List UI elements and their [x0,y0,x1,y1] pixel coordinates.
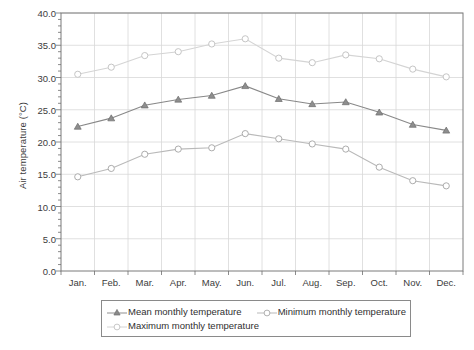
legend-label-maximum: Maximum monthly temperature [128,320,259,331]
legend-item-minimum[interactable]: Minimum monthly temperature [256,305,406,317]
legend-row-2: Maximum monthly temperature [106,318,406,332]
data-point-marker [108,115,115,121]
legend-row-1: Mean monthly temperature Minimum monthly… [106,304,406,318]
data-point-marker [376,164,382,170]
data-point-marker [75,174,81,180]
data-point-marker [142,151,148,157]
data-point-marker [309,60,315,66]
data-point-marker [242,36,248,42]
data-point-marker [108,64,114,70]
legend-marker-mean-triangle-icon [106,305,128,317]
plot-area [0,0,474,350]
data-point-marker [276,55,282,61]
data-point-marker [142,52,148,58]
data-point-marker [276,136,282,142]
data-point-marker [242,131,248,137]
data-point-marker [175,146,181,152]
data-point-marker [275,95,282,101]
legend-label-minimum: Minimum monthly temperature [278,306,406,317]
data-point-marker [343,52,349,58]
legend-marker-maximum-circle-icon [106,319,128,331]
data-point-marker [209,41,215,47]
temperature-line-chart: Air temperature (°C) 0.05.010.015.020.02… [0,0,474,350]
data-point-marker [343,146,349,152]
data-point-marker [242,83,249,89]
chart-legend: Mean monthly temperature Minimum monthly… [101,300,411,337]
data-point-marker [309,141,315,147]
data-point-marker [443,74,449,80]
data-point-marker [75,71,81,77]
legend-item-maximum[interactable]: Maximum monthly temperature [106,319,287,331]
legend-item-mean[interactable]: Mean monthly temperature [106,305,256,317]
data-point-marker [108,165,114,171]
data-point-marker [376,56,382,62]
data-point-marker [209,145,215,151]
legend-marker-minimum-circle-icon [256,305,278,317]
data-point-marker [410,178,416,184]
data-point-marker [175,49,181,55]
legend-label-mean: Mean monthly temperature [128,306,242,317]
data-point-marker [410,66,416,72]
data-point-marker [443,183,449,189]
